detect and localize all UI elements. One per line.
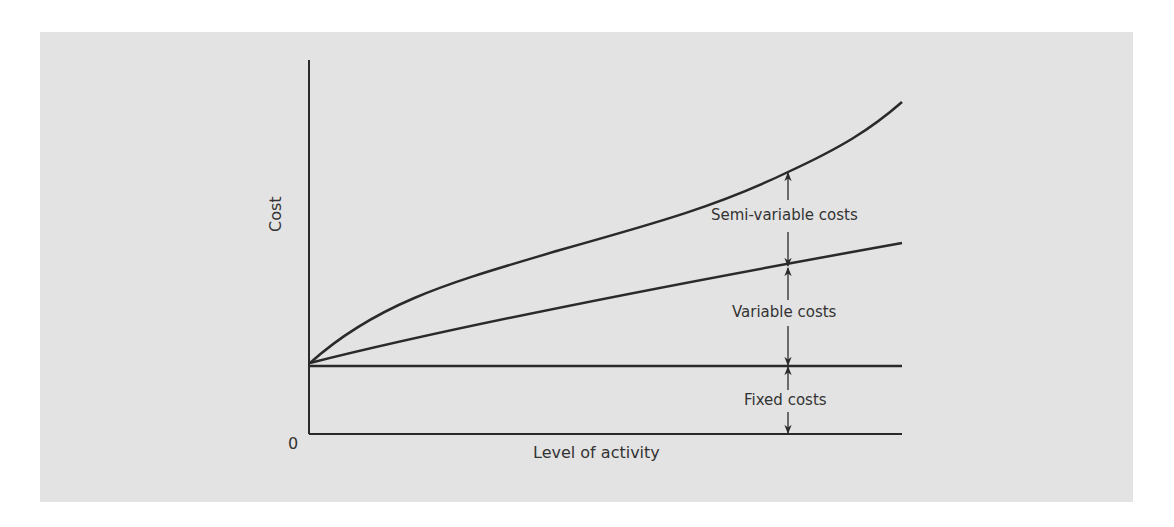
variable-costs-label: Variable costs (732, 303, 836, 321)
semi-variable-costs-label: Semi-variable costs (711, 206, 858, 224)
origin-label: 0 (288, 434, 298, 453)
y-axis-label: Cost (266, 196, 285, 232)
x-axis-label: Level of activity (533, 443, 660, 462)
semi-variable-cost-curve (310, 102, 902, 363)
fixed-costs-label: Fixed costs (744, 391, 827, 409)
